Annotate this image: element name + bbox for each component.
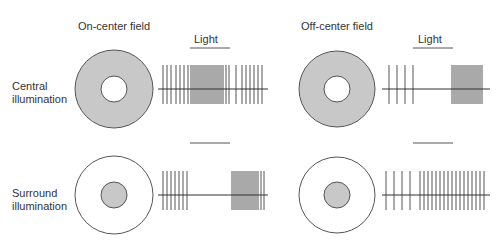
row-label-central-line1: Central [12, 80, 67, 93]
row-label-central-line2: illumination [12, 93, 67, 106]
light-label-off-center: Light [418, 33, 442, 46]
row-label-central: Central illumination [12, 80, 67, 106]
row-label-surround: Surround illumination [12, 187, 67, 213]
light-label-on-center: Light [194, 33, 218, 46]
row-label-surround-line2: illumination [12, 200, 67, 213]
on-center-title: On-center field [78, 20, 150, 33]
on-center-surround-field-center [101, 182, 127, 208]
row-label-surround-line1: Surround [12, 187, 67, 200]
off-center-title: Off-center field [301, 20, 373, 33]
off-center-surround-field-center [324, 182, 350, 208]
off-center-central-field-center [324, 76, 350, 102]
on-center-central-field-center [101, 76, 127, 102]
